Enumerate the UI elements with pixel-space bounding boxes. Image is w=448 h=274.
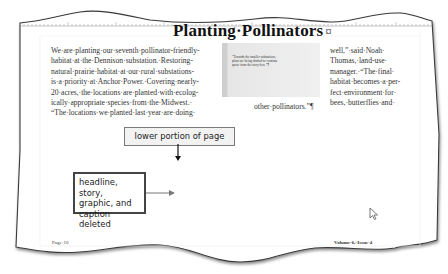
pull-quote-text: “Towards·the·smaller·substations,· plans… [232,55,278,68]
end-of-cell-mark: ¤ [325,25,331,39]
story-line: fect·environment·for· [330,88,400,98]
footer-volume-issue[interactable]: Volume·6,·Issue·4 [334,240,372,245]
story-column-2-tail[interactable]: other·pollinators.”¶ [254,102,313,112]
story-line: We·are·planting·our·seventh·pollinator-f… [51,46,200,56]
story-line: ically·appropriate·species·from·the·Midw… [51,98,200,108]
story-line: habitat·becomes·a·per- [330,77,400,87]
story-line: habitat·at·the·Dennison·substation.·Rest… [51,56,200,66]
pull-quote-line: quote·from·the·story·here.”¶ [232,63,278,67]
headline-text: Planting·Pollinators [173,21,323,40]
footer-page-number[interactable]: Page·10 [52,240,68,245]
mouse-pointer-icon [369,207,379,221]
story-line: is·a·priority·at·Anchor·Power.·Covering·… [51,77,200,87]
story-line: “The·locations·we·planted·last·year·are·… [51,108,200,118]
headline[interactable]: Planting·Pollinators¤ [173,21,332,41]
story-line: natural·prairie·habitat·at·our·rural·sub… [51,67,200,77]
story-line: bees,·butterflies·and· [330,98,400,108]
story-line: manager.·“The·final· [330,67,400,77]
callout-deleted-content: headline, story, graphic, and caption de… [73,172,146,214]
pull-quote-box[interactable]: “Towards·the·smaller·substations,· plans… [222,43,320,97]
story-column-1[interactable]: We·are·planting·our·seventh·pollinator-f… [51,46,200,119]
arrow-down-icon [174,144,182,162]
arrow-right-icon [146,189,176,197]
document-page[interactable]: Planting·Pollinators¤ We·are·planting·ou… [0,0,448,274]
story-line: 20·acres,·the·locations·are·planted·with… [51,88,200,98]
story-line: Thomas,·land-use· [330,56,400,66]
callout-line: caption deleted [79,209,140,230]
story-column-3[interactable]: well,”·said·Noah· Thomas,·land-use· mana… [330,46,400,108]
callout-line: headline, story, [79,177,140,198]
callout-line: graphic, and [79,198,140,209]
story-line: well,”·said·Noah· [330,46,400,56]
